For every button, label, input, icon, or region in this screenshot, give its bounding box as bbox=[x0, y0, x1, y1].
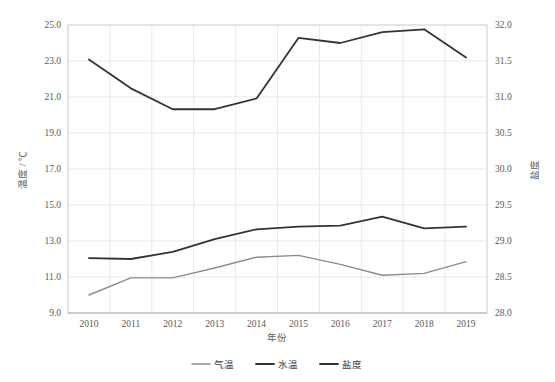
legend-label-水温: 水温 bbox=[278, 359, 298, 370]
right-axis-tick: 31.5 bbox=[495, 56, 512, 66]
left-axis-tick: 11.0 bbox=[45, 272, 62, 282]
x-axis-tick: 2014 bbox=[247, 319, 266, 329]
right-axis-tick: 28.0 bbox=[495, 308, 512, 318]
left-axis-tick: 13.0 bbox=[44, 236, 61, 246]
x-axis-tick: 2017 bbox=[373, 319, 392, 329]
right-axis-tick-labels: 28.028.529.029.530.030.531.031.532.0 bbox=[495, 20, 512, 318]
x-axis-tick: 2012 bbox=[163, 319, 182, 329]
left-axis-tick: 21.0 bbox=[44, 92, 61, 102]
left-axis-tick-labels: 9.011.013.015.017.019.021.023.025.0 bbox=[44, 20, 61, 318]
right-axis-tick: 30.0 bbox=[495, 164, 512, 174]
left-axis-title: 温度 / ℃ bbox=[17, 151, 28, 188]
x-axis-tick: 2016 bbox=[331, 319, 350, 329]
x-axis-tick: 2015 bbox=[289, 319, 308, 329]
line-chart: 9.011.013.015.017.019.021.023.025.0 28.0… bbox=[0, 0, 555, 382]
legend-label-气温: 气温 bbox=[214, 359, 234, 370]
x-axis-tick: 2018 bbox=[415, 319, 434, 329]
right-axis-title: 盐度 bbox=[529, 160, 540, 180]
right-axis-tick: 28.5 bbox=[495, 272, 512, 282]
right-axis-tick: 29.5 bbox=[495, 200, 512, 210]
right-axis-tick: 31.0 bbox=[495, 92, 512, 102]
x-axis-tick: 2010 bbox=[79, 319, 98, 329]
right-axis-tick: 32.0 bbox=[495, 20, 512, 30]
right-axis-tick: 29.0 bbox=[495, 236, 512, 246]
left-axis-tick: 9.0 bbox=[49, 308, 61, 318]
left-axis-tick: 23.0 bbox=[44, 56, 61, 66]
left-axis-tick: 15.0 bbox=[44, 200, 61, 210]
x-axis-title: 年份 bbox=[267, 332, 287, 343]
legend-label-盐度: 盐度 bbox=[342, 359, 362, 370]
left-axis-tick: 19.0 bbox=[44, 128, 61, 138]
x-axis-tick: 2013 bbox=[205, 319, 224, 329]
x-axis-tick: 2019 bbox=[457, 319, 476, 329]
right-axis-tick: 30.5 bbox=[495, 128, 512, 138]
left-axis-tick: 17.0 bbox=[44, 164, 61, 174]
x-axis-tick: 2011 bbox=[122, 319, 141, 329]
chart-container: 9.011.013.015.017.019.021.023.025.0 28.0… bbox=[0, 0, 555, 382]
left-axis-tick: 25.0 bbox=[44, 20, 61, 30]
